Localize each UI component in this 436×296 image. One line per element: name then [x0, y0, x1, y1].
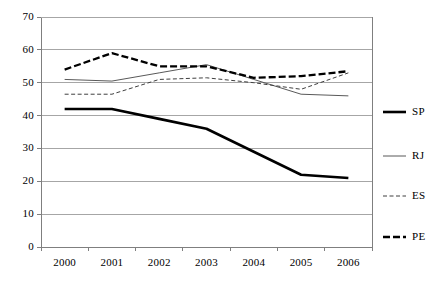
- y-axis-tick-label: 70: [8, 11, 34, 22]
- series-line-ES: [65, 73, 349, 94]
- legend-label-PE: PE: [412, 231, 425, 242]
- y-axis-tick-label: 50: [8, 77, 34, 88]
- y-axis-tick-label: 60: [8, 44, 34, 55]
- y-axis-tick-label: 10: [8, 208, 34, 219]
- y-axis-tick-label: 40: [8, 110, 34, 121]
- y-axis-tick-label: 30: [8, 142, 34, 153]
- chart-canvas: [0, 0, 436, 296]
- legend-label-SP: SP: [412, 106, 425, 117]
- y-axis-tick-label: 20: [8, 175, 34, 186]
- y-axis-ticks: [37, 17, 41, 247]
- plot-frame: [41, 17, 372, 247]
- legend-label-ES: ES: [412, 190, 425, 201]
- x-axis-tick-label: 2001: [85, 257, 139, 268]
- x-axis-ticks: [41, 247, 372, 251]
- x-axis-tick-label: 2006: [321, 257, 375, 268]
- legend-swatches: [383, 112, 406, 237]
- x-axis-tick-label: 2003: [180, 257, 234, 268]
- gridlines: [41, 17, 372, 214]
- legend-label-RJ: RJ: [412, 150, 424, 161]
- x-axis-tick-label: 2004: [227, 257, 281, 268]
- y-axis-tick-label: 0: [8, 241, 34, 252]
- x-axis-tick-label: 2000: [38, 257, 92, 268]
- x-axis-tick-label: 2002: [132, 257, 186, 268]
- series-line-RJ: [65, 65, 349, 96]
- series-line-PE: [65, 53, 349, 78]
- series-line-SP: [65, 109, 349, 178]
- x-axis-tick-label: 2005: [274, 257, 328, 268]
- line-chart: 706050403020100 200020012002200320042005…: [0, 0, 436, 296]
